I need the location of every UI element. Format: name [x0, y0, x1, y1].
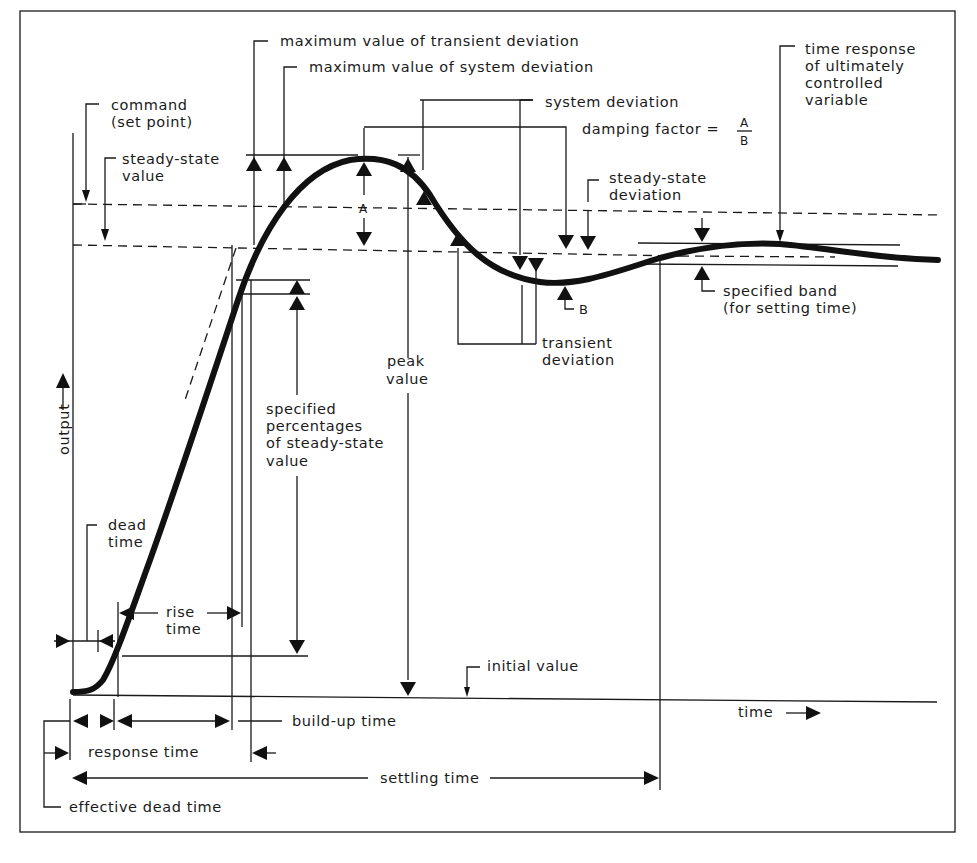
arrow-right-icon [806, 706, 821, 720]
output-axis-label: output [56, 373, 72, 455]
svg-text:rise: rise [166, 604, 195, 620]
settling-time-annotation: settling time [72, 770, 659, 786]
svg-text:steady-state: steady-state [609, 170, 707, 186]
diagram-canvas: output time maximum value of transient d… [0, 0, 977, 863]
svg-text:B: B [740, 134, 749, 148]
dead-time-annotation: dead time [54, 517, 147, 652]
a-measurement: A [356, 128, 372, 246]
svg-text:time: time [738, 704, 773, 720]
svg-text:output: output [56, 404, 72, 455]
svg-text:A: A [359, 202, 368, 216]
arrow-up-icon [56, 373, 70, 388]
effective-dead-time-annotation: effective dead time [44, 721, 222, 815]
svg-text:variable: variable [805, 92, 868, 108]
svg-text:settling time: settling time [380, 770, 479, 786]
b-measurement: B [557, 286, 589, 317]
svg-text:transient: transient [542, 335, 613, 351]
transient-deviation-annotation: transient deviation [458, 248, 615, 368]
svg-text:time: time [166, 621, 201, 637]
svg-text:percentages: percentages [266, 418, 363, 434]
svg-text:value: value [266, 453, 309, 469]
response-curve [73, 159, 938, 692]
svg-text:system deviation: system deviation [545, 94, 679, 110]
svg-text:command: command [111, 97, 188, 113]
peak-value-annotation: peak value [386, 157, 429, 696]
response-time-annotation: response time [44, 744, 276, 760]
svg-text:value: value [122, 168, 165, 184]
specified-percentages-annotation: specified percentages of steady-state va… [122, 280, 384, 656]
svg-text:time response: time response [805, 41, 916, 57]
svg-text:(for setting time): (for setting time) [723, 300, 857, 316]
svg-text:deviation: deviation [542, 352, 615, 368]
svg-text:specified band: specified band [723, 283, 837, 299]
svg-text:effective dead time: effective dead time [69, 799, 222, 815]
time-response-annotation: time response of ultimately controlled v… [776, 41, 916, 242]
svg-text:damping factor =: damping factor = [582, 121, 719, 137]
svg-text:initial value: initial value [487, 658, 579, 674]
svg-text:steady-state: steady-state [122, 151, 220, 167]
step-response-diagram: output time maximum value of transient d… [0, 0, 977, 863]
svg-text:B: B [579, 302, 589, 317]
steady-state-value-annotation: steady-state value [101, 151, 220, 241]
svg-text:build-up time: build-up time [292, 713, 396, 729]
svg-text:A: A [740, 116, 749, 130]
specified-band-annotation: specified band (for setting time) [694, 218, 857, 316]
svg-text:maximum value of system deviat: maximum value of system deviation [309, 59, 594, 75]
svg-text:dead: dead [108, 517, 147, 533]
time-axis [73, 695, 937, 702]
band-lower [638, 264, 898, 266]
svg-text:controlled: controlled [805, 75, 883, 91]
steady-state-deviation-annotation: steady-state deviation [580, 170, 707, 250]
svg-text:deviation: deviation [609, 187, 682, 203]
svg-text:of steady-state: of steady-state [266, 435, 384, 451]
time-axis-label: time [738, 704, 821, 720]
svg-text:peak: peak [387, 353, 425, 369]
svg-text:time: time [108, 534, 143, 550]
svg-text:response time: response time [88, 744, 199, 760]
rise-time-annotation: rise time [118, 602, 241, 697]
svg-text:specified: specified [266, 401, 336, 417]
initial-value-annotation: initial value [464, 658, 579, 697]
diagram-frame [20, 11, 955, 832]
setpoint-line [73, 204, 940, 215]
max-system-deviation-annotation: maximum value of system deviation [276, 59, 594, 204]
svg-text:value: value [386, 371, 429, 387]
svg-text:(set point): (set point) [111, 114, 193, 130]
svg-text:maximum value of transient dev: maximum value of transient deviation [280, 33, 579, 49]
svg-text:of ultimately: of ultimately [805, 58, 905, 74]
